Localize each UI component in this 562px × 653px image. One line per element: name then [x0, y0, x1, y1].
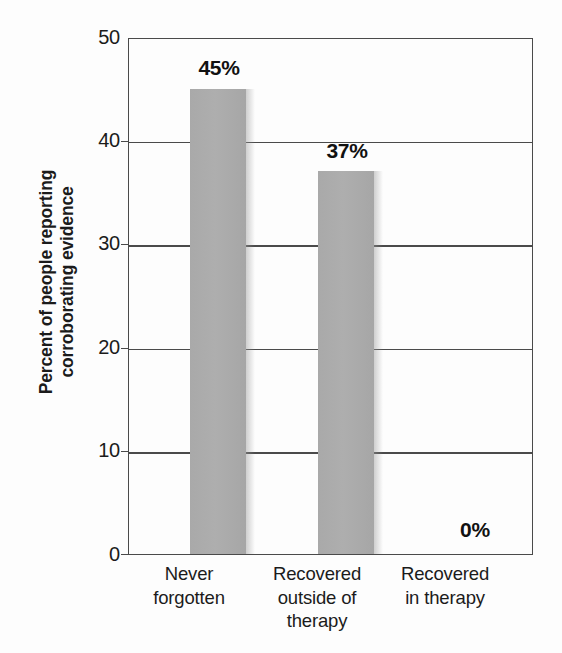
x-tick-label-recovered-in-therapy-line-1: Recovered	[383, 562, 507, 586]
value-label-recovered-outside-therapy: 37%	[287, 139, 407, 163]
x-tick-label-recovered-outside-therapy: Recovered outside of therapy	[255, 562, 379, 633]
plot-area	[128, 38, 533, 555]
x-tick-label-never-forgotten: Never forgotten	[127, 562, 251, 609]
value-label-never-forgotten: 45%	[159, 56, 279, 80]
y-axis-title-line-1: Percent of people reporting	[36, 170, 57, 394]
x-tick-label-never-forgotten-line-2: forgotten	[127, 586, 251, 610]
x-tick-label-recovered-outside-therapy-line-1: Recovered	[255, 562, 379, 586]
y-tick-label-40: 40	[70, 129, 120, 152]
x-tick-label-never-forgotten-line-1: Never	[127, 562, 251, 586]
y-axis-title: Percent of people reporting corroboratin…	[28, 122, 86, 442]
y-tick-label-50: 50	[70, 26, 120, 49]
bar-chart: Percent of people reporting corroboratin…	[0, 0, 562, 653]
x-tick-label-recovered-in-therapy-line-2: in therapy	[383, 586, 507, 610]
y-tick-label-20: 20	[70, 336, 120, 359]
value-label-recovered-in-therapy: 0%	[415, 518, 535, 542]
y-tick-label-10: 10	[70, 439, 120, 462]
bar-never-forgotten	[190, 89, 246, 554]
x-tick-label-recovered-outside-therapy-line-3: therapy	[255, 609, 379, 633]
x-tick-label-recovered-outside-therapy-line-2: outside of	[255, 586, 379, 610]
x-tick-label-recovered-in-therapy: Recovered in therapy	[383, 562, 507, 609]
y-tick-label-30: 30	[70, 232, 120, 255]
bar-recovered-outside-therapy	[318, 171, 374, 554]
y-tick-label-0: 0	[70, 543, 120, 566]
